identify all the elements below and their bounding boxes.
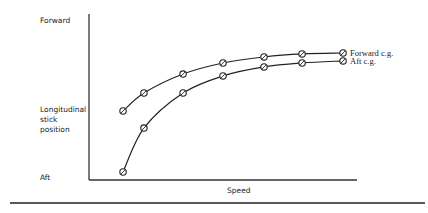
y-axis-label-line-1: Longitudinal xyxy=(40,105,86,114)
data-point xyxy=(340,58,346,64)
data-point xyxy=(141,125,147,131)
data-point xyxy=(261,54,267,60)
data-point xyxy=(180,90,186,96)
y-top-label: Forward xyxy=(40,16,70,25)
y-bottom-label: Aft xyxy=(40,173,50,182)
series-line-aft-cg xyxy=(123,61,343,172)
y-axis-label-line-3: position xyxy=(40,125,70,134)
data-point xyxy=(340,50,346,56)
data-point xyxy=(141,90,147,96)
data-point xyxy=(180,71,186,77)
data-point xyxy=(120,169,126,175)
y-axis-label-line-2: stick xyxy=(40,115,58,124)
series-layer: Forward c.g.Aft c.g. xyxy=(120,48,393,175)
data-point xyxy=(299,51,305,57)
data-point xyxy=(261,64,267,70)
stick-position-chart: Forward Aft Longitudinal stick position … xyxy=(0,0,428,213)
y-axis-label: Longitudinal stick position xyxy=(40,105,89,134)
data-point xyxy=(220,73,226,79)
x-axis-label: Speed xyxy=(227,186,251,195)
data-point xyxy=(220,60,226,66)
data-point xyxy=(299,60,305,66)
data-point xyxy=(120,108,126,114)
legend-label-aft-cg: Aft c.g. xyxy=(350,56,376,66)
series-line-forward-cg xyxy=(123,53,343,111)
